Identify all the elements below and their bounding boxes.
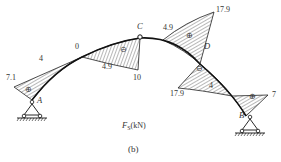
value-a-left: 7.1 [6, 73, 16, 82]
value-seg1: 4 [39, 54, 43, 63]
minus-sign-icon: ⊖ [120, 45, 127, 54]
value-neg-left: 4.9 [102, 62, 112, 71]
value-pos-peak: 17.9 [216, 5, 230, 14]
plus-sign-icon: ⊕ [25, 85, 32, 94]
plus-sign-icon: ⊕ [186, 31, 193, 40]
point-d-label: D [203, 41, 211, 51]
value-b-right: 7 [272, 90, 276, 99]
unit-label: FS(kN) [121, 120, 146, 131]
value-pos-right: 4.9 [163, 23, 173, 32]
shear-force-diagram: ⊕ ⊖ ⊕ ⊖ ⊕ 7.1 4 0 4.9 10 4.9 17.9 17.9 4… [0, 0, 281, 162]
hinge-c-icon [138, 35, 142, 39]
point-b-label: B [239, 110, 244, 120]
value-d-neg: 17.9 [170, 89, 184, 98]
point-c-label: C [137, 21, 143, 31]
pin-support-a-icon [17, 100, 47, 121]
minus-sign-icon: ⊖ [196, 64, 203, 73]
plus-sign-icon: ⊕ [249, 92, 256, 101]
value-d-right: 4 [209, 81, 213, 90]
point-a-label: A [36, 95, 43, 105]
value-zero: 0 [75, 42, 79, 51]
figure-caption: (b) [128, 144, 139, 154]
value-neg-peak: 10 [133, 73, 141, 82]
